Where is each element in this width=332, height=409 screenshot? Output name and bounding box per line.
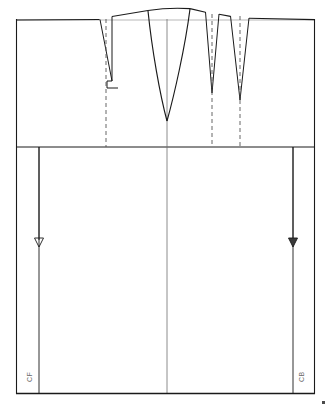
right-dart-outer xyxy=(231,16,250,147)
center-back-label: CB xyxy=(298,371,305,382)
registration-tick-icon xyxy=(322,401,325,404)
pattern-drawing-canvas: CF CB xyxy=(0,0,332,409)
right-dart-outer-leg-right xyxy=(240,18,249,100)
right-dart-outer-leg-left xyxy=(231,16,241,100)
right-neck-fall xyxy=(190,9,206,13)
center-dart-leg-left xyxy=(148,11,167,121)
pattern-diagram xyxy=(0,0,332,409)
left-neck-rise xyxy=(112,11,148,17)
right-shoulder-line xyxy=(249,18,315,19)
back-grainline-arrow xyxy=(289,147,298,247)
side-seam-lines xyxy=(39,147,293,394)
shoulder-neckline-contour xyxy=(16,8,315,20)
right-shoulder-segment xyxy=(219,14,231,16)
center-dart-leg-right xyxy=(167,9,190,121)
left-shoulder-dart xyxy=(100,17,118,148)
center-dart xyxy=(148,9,190,121)
front-grainline-arrow xyxy=(35,147,44,247)
right-dart-inner xyxy=(206,12,220,147)
neck-plateau xyxy=(148,8,190,10)
center-front-label: CF xyxy=(26,372,33,382)
lower-block-outline xyxy=(16,147,315,394)
left-shoulder-line xyxy=(16,20,100,21)
right-dart-inner-leg-right xyxy=(212,14,219,93)
back-grainline-arrowhead xyxy=(289,238,298,247)
upper-block-outline xyxy=(16,19,315,147)
right-dart-inner-leg-left xyxy=(206,12,213,93)
left-dart-base-step xyxy=(107,81,118,88)
